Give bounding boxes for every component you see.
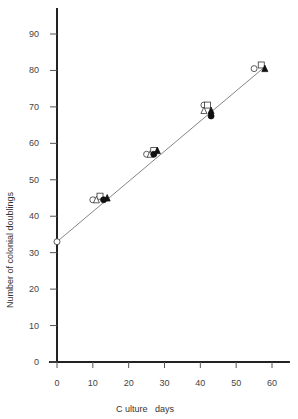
x-tick-label: 10 xyxy=(88,378,98,388)
y-tick-label: 0 xyxy=(34,357,39,367)
regression-line xyxy=(57,67,265,242)
open-square-marker xyxy=(205,102,211,108)
y-tick-label: 90 xyxy=(29,29,39,39)
open-circle-marker xyxy=(54,239,60,245)
open-square-marker xyxy=(258,62,264,68)
x-tick-label: 40 xyxy=(195,378,205,388)
y-tick-label: 20 xyxy=(29,284,39,294)
x-tick-label: 60 xyxy=(267,378,277,388)
fit-line xyxy=(57,67,265,242)
y-tick-label: 50 xyxy=(29,175,39,185)
y-tick-label: 10 xyxy=(29,321,39,331)
x-axis-title: C ulture days xyxy=(116,404,175,414)
x-tick-label: 50 xyxy=(231,378,241,388)
y-tick-label: 30 xyxy=(29,248,39,258)
open-circle-marker xyxy=(251,66,257,72)
y-tick-label: 60 xyxy=(29,138,39,148)
x-tick-label: 20 xyxy=(124,378,134,388)
axes xyxy=(49,8,290,363)
y-axis-title: Number of colonial doublings xyxy=(5,191,15,308)
chart: 0102030405060708090 0102030405060 Number… xyxy=(0,0,298,419)
y-tick-label: 70 xyxy=(29,102,39,112)
x-tick-label: 0 xyxy=(54,378,59,388)
x-tick-label: 30 xyxy=(159,378,169,388)
y-tick-label: 80 xyxy=(29,65,39,75)
y-axis-ticks: 0102030405060708090 xyxy=(29,29,57,367)
x-axis-ticks: 0102030405060 xyxy=(54,362,277,388)
y-tick-label: 40 xyxy=(29,211,39,221)
